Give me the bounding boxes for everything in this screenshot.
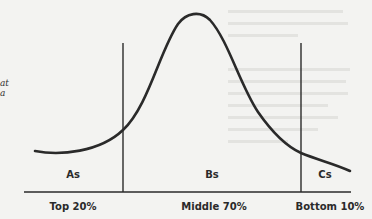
bleed-through-text (228, 10, 350, 143)
axis-label-top-20: Top 20% (50, 201, 97, 212)
margin-fragment-2: a (0, 88, 5, 98)
distribution-diagram: at a As Bs Cs Top 20% Middle 70% Bottom … (0, 0, 372, 219)
region-label-bs: Bs (205, 169, 219, 180)
region-label-cs: Cs (318, 169, 331, 180)
margin-fragment-1: at (0, 78, 9, 88)
axis-label-bottom-10: Bottom 10% (296, 201, 365, 212)
region-label-as: As (66, 169, 80, 180)
axis-label-middle-70: Middle 70% (181, 201, 246, 212)
